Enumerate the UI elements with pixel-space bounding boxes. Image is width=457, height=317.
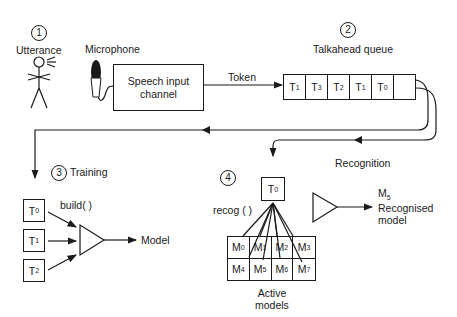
- training-token: T2: [23, 259, 45, 282]
- model-cell: M2: [272, 237, 294, 259]
- training-token: T1: [23, 229, 45, 252]
- active-models-label: Active models: [255, 287, 289, 311]
- step-4-badge: 4: [220, 170, 236, 186]
- recog-token: T0: [261, 177, 285, 201]
- queue-cell: T3: [306, 75, 328, 99]
- active-models-grid: M0 M1 M2 M3 M4 M5 M6 M7: [227, 236, 316, 281]
- queue-cell: T0: [372, 75, 394, 99]
- microphone-label: Microphone: [85, 44, 140, 55]
- model-cell: M0: [228, 237, 250, 259]
- step-1-badge: 1: [31, 25, 47, 41]
- speech-channel-line1: Speech input: [128, 75, 189, 88]
- model-cell: M4: [228, 259, 250, 281]
- step-2-badge: 2: [340, 22, 356, 38]
- model-cell: M6: [272, 259, 294, 281]
- model-cell: M7: [293, 259, 315, 281]
- recognition-label: Recognition: [335, 158, 390, 169]
- utterance-label: Utterance: [16, 45, 62, 56]
- recognised-model-label: Recognised model: [378, 203, 433, 226]
- queue-cell: T1: [350, 75, 372, 99]
- token-label: Token: [228, 72, 256, 83]
- model-cell: M3: [293, 237, 315, 259]
- queue-cell: T2: [328, 75, 350, 99]
- talkahead-queue: T1 T3 T2 T1 T0: [283, 74, 416, 100]
- build-label: build( ): [60, 200, 92, 211]
- step-3-badge: 3: [51, 165, 67, 181]
- queue-cell-empty: [394, 75, 415, 99]
- recog-label: recog ( ): [213, 205, 252, 216]
- speech-channel-line2: channel: [140, 88, 177, 101]
- model-label: Model: [141, 235, 170, 246]
- speech-input-channel: Speech input channel: [113, 64, 204, 111]
- recognised-model-id: M5: [378, 188, 391, 201]
- talkahead-queue-label: Talkahead queue: [313, 44, 393, 55]
- model-cell: M5: [250, 259, 272, 281]
- training-label: Training: [70, 167, 108, 178]
- model-cell: M1: [250, 237, 272, 259]
- queue-cell: T1: [284, 75, 306, 99]
- training-token: T0: [23, 199, 45, 222]
